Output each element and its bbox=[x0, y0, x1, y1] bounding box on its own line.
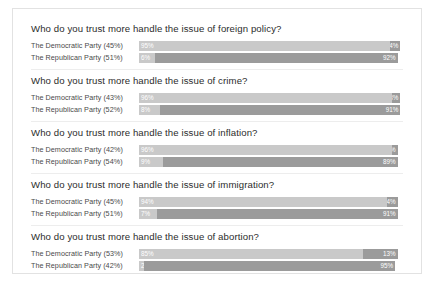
bar-row-label: The Democratic Party (42%) bbox=[31, 145, 139, 155]
bar-segment-right: 13% bbox=[363, 249, 397, 259]
bar-segment-left: 9% bbox=[139, 157, 163, 167]
stacked-bar: 7%91% bbox=[139, 209, 403, 219]
bar-segment-left-value: 85% bbox=[141, 249, 154, 259]
bar-segment-right-value: 13% bbox=[383, 249, 396, 259]
stacked-bar: 94%4% bbox=[139, 197, 403, 207]
stacked-bar: 8%91% bbox=[139, 105, 403, 115]
question-title: Who do you trust more handle the issue o… bbox=[31, 230, 403, 243]
bar-row: The Republican Party (51%)7%91% bbox=[31, 209, 403, 219]
bar-row: The Republican Party (42%)2%95% bbox=[31, 261, 403, 271]
stacked-bar: 6%92% bbox=[139, 53, 403, 63]
bar-row-label: The Republican Party (52%) bbox=[31, 105, 139, 115]
bar-row: The Republican Party (54%)9%89% bbox=[31, 157, 403, 167]
bar-segment-right-value: 2% bbox=[392, 145, 395, 155]
bar-segment-left: 7% bbox=[139, 209, 157, 219]
bar-segment-right-value: 89% bbox=[383, 157, 396, 167]
bar-row-label: The Republican Party (51%) bbox=[31, 209, 139, 219]
bar-segment-right: 91% bbox=[157, 209, 397, 219]
bar-row-label: The Republican Party (51%) bbox=[31, 53, 139, 63]
question-title: Who do you trust more handle the issue o… bbox=[31, 178, 403, 191]
bar-segment-left-value: 96% bbox=[141, 93, 154, 103]
bar-row-label: The Republican Party (42%) bbox=[31, 261, 139, 271]
bar-row: The Republican Party (52%)8%91% bbox=[31, 105, 403, 115]
bar-segment-right-value: 3% bbox=[392, 93, 398, 103]
bar-segment-left-value: 9% bbox=[141, 157, 150, 167]
bar-row: The Republican Party (51%)6%92% bbox=[31, 53, 403, 63]
bar-segment-left-value: 8% bbox=[141, 105, 150, 115]
bar-row: The Democratic Party (45%)95%4% bbox=[31, 41, 403, 51]
bar-segment-right-value: 95% bbox=[380, 261, 393, 271]
question-section: Who do you trust more handle the issue o… bbox=[31, 122, 403, 174]
stacked-bar: 9%89% bbox=[139, 157, 403, 167]
bar-segment-right: 4% bbox=[390, 41, 401, 51]
question-section: Who do you trust more handle the issue o… bbox=[31, 226, 403, 277]
stacked-bar: 96%2% bbox=[139, 145, 403, 155]
bar-segment-right: 4% bbox=[387, 197, 398, 207]
bar-row: The Democratic Party (45%)94%4% bbox=[31, 197, 403, 207]
bar-segment-right: 2% bbox=[392, 145, 397, 155]
bar-segment-right-value: 4% bbox=[390, 41, 399, 51]
bar-segment-left: 8% bbox=[139, 105, 160, 115]
bar-segment-right: 91% bbox=[160, 105, 400, 115]
bar-segment-left: 95% bbox=[139, 41, 390, 51]
question-section: Who do you trust more handle the issue o… bbox=[31, 174, 403, 226]
bar-row: The Democratic Party (42%)96%2% bbox=[31, 145, 403, 155]
bar-segment-right-value: 91% bbox=[386, 105, 399, 115]
bar-row-label: The Democratic Party (45%) bbox=[31, 41, 139, 51]
bar-row: The Democratic Party (43%)96%3% bbox=[31, 93, 403, 103]
question-title: Who do you trust more handle the issue o… bbox=[31, 22, 403, 35]
bar-row-label: The Republican Party (54%) bbox=[31, 157, 139, 167]
bar-segment-right: 92% bbox=[155, 53, 398, 63]
bar-segment-right: 95% bbox=[144, 261, 395, 271]
bar-segment-left: 96% bbox=[139, 93, 392, 103]
chart-card: Who do you trust more handle the issue o… bbox=[12, 8, 422, 274]
bar-segment-left: 6% bbox=[139, 53, 155, 63]
question-section: Who do you trust more handle the issue o… bbox=[31, 18, 403, 70]
bar-segment-left: 94% bbox=[139, 197, 387, 207]
bar-segment-left: 85% bbox=[139, 249, 363, 259]
bar-segment-left: 96% bbox=[139, 145, 392, 155]
bar-segment-right: 3% bbox=[392, 93, 400, 103]
bar-segment-left-value: 6% bbox=[141, 53, 150, 63]
question-sections: Who do you trust more handle the issue o… bbox=[13, 9, 421, 273]
bar-row-label: The Democratic Party (53%) bbox=[31, 249, 139, 259]
stacked-bar: 95%4% bbox=[139, 41, 403, 51]
bar-row-label: The Democratic Party (45%) bbox=[31, 197, 139, 207]
bar-segment-left-value: 96% bbox=[141, 145, 154, 155]
bar-segment-right-value: 4% bbox=[387, 197, 396, 207]
stacked-bar: 85%13% bbox=[139, 249, 403, 259]
question-section: Who do you trust more handle the issue o… bbox=[31, 70, 403, 122]
bar-row: The Democratic Party (53%)85%13% bbox=[31, 249, 403, 259]
bar-segment-right-value: 91% bbox=[383, 209, 396, 219]
bar-row-label: The Democratic Party (43%) bbox=[31, 93, 139, 103]
stacked-bar: 2%95% bbox=[139, 261, 403, 271]
bar-segment-left-value: 7% bbox=[141, 209, 150, 219]
question-title: Who do you trust more handle the issue o… bbox=[31, 74, 403, 87]
bar-segment-right-value: 92% bbox=[383, 53, 396, 63]
stacked-bar: 96%3% bbox=[139, 93, 403, 103]
bar-segment-left-value: 94% bbox=[141, 197, 154, 207]
bar-segment-left-value: 95% bbox=[141, 41, 154, 51]
bar-segment-right: 89% bbox=[163, 157, 398, 167]
question-title: Who do you trust more handle the issue o… bbox=[31, 126, 403, 139]
